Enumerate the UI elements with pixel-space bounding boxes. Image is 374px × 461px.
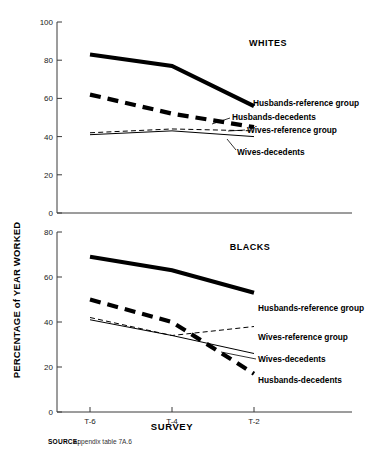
y-tick-label: 60	[44, 94, 53, 103]
source-text: Appendix table 7A.6	[73, 438, 132, 446]
panel-title-whites: WHITES	[249, 38, 287, 48]
series-label-wives-reference-group: Wives-reference group	[247, 125, 337, 135]
series-line-wives-decedents	[90, 320, 254, 354]
y-tick-label: 60	[44, 273, 53, 282]
chart-figure: 020406080100WHITESHusbands-reference gro…	[0, 0, 374, 461]
series-label-wives-decedents: Wives-decedents	[237, 147, 305, 157]
y-tick-label: 40	[44, 318, 53, 327]
series-label-wives-decedents: Wives-decedents	[258, 354, 326, 364]
y-tick-label: 100	[40, 18, 54, 27]
series-label-husbands-reference-group: Husbands-reference group	[253, 98, 359, 108]
y-tick-label: 40	[44, 133, 53, 142]
leader-line	[227, 139, 236, 150]
series-line-husbands-decedents	[90, 300, 254, 374]
series-line-wives-reference-group	[90, 318, 254, 336]
y-axis-title: PERCENTAGE of YEAR WORKED	[11, 222, 22, 379]
y-tick-label: 0	[49, 209, 54, 218]
series-line-husbands-decedents	[90, 95, 254, 127]
panel-title-blacks: BLACKS	[230, 242, 271, 252]
y-tick-label: 20	[44, 171, 53, 180]
x-axis-title: SURVEY	[151, 421, 194, 432]
series-label-husbands-decedents: Husbands-decedents	[232, 112, 316, 122]
y-tick-label: 80	[44, 56, 53, 65]
series-line-husbands-reference-group	[90, 257, 254, 293]
y-tick-label: 0	[49, 408, 54, 417]
series-label-wives-reference-group: Wives-reference group	[258, 332, 348, 342]
series-label-husbands-decedents: Husbands-decedents	[258, 375, 342, 385]
x-tick-label: T-6	[84, 417, 96, 426]
x-tick-label: T-2	[248, 417, 260, 426]
y-tick-label: 80	[44, 228, 53, 237]
y-tick-label: 20	[44, 363, 53, 372]
series-label-husbands-reference-group: Husbands-reference group	[258, 303, 364, 313]
